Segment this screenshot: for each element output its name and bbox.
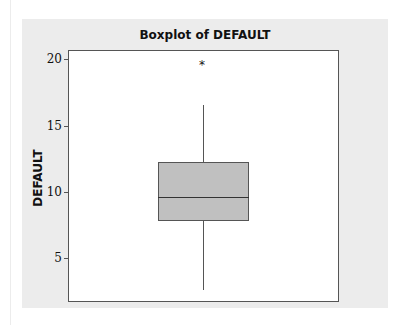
upper-whisker (203, 105, 204, 162)
ytick-mark-20 (64, 59, 68, 60)
ytick-mark-5 (64, 258, 68, 259)
lower-whisker (203, 221, 204, 290)
median-line (158, 197, 249, 198)
page-left-rule (10, 0, 11, 325)
ytick-label-20: 20 (32, 52, 62, 66)
chart-title: Boxplot of DEFAULT (22, 28, 388, 42)
ytick-label-15: 15 (32, 119, 62, 133)
outlier-marker: * (199, 59, 205, 71)
ytick-label-5: 5 (32, 251, 62, 265)
iqr-box (158, 162, 249, 221)
ytick-mark-15 (64, 126, 68, 127)
ytick-mark-10 (64, 192, 68, 193)
y-axis-label: DEFAULT (31, 149, 45, 207)
